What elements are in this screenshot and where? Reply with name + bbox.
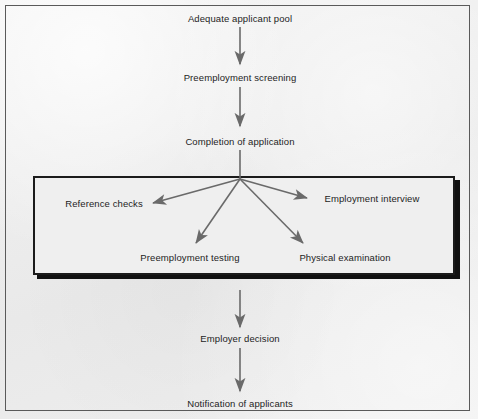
edge-junction-to-reference-checks — [153, 179, 240, 203]
node-notification-of-applicants: Notification of applicants — [187, 398, 293, 409]
node-completion-of-application: Completion of application — [185, 136, 294, 147]
node-employer-decision: Employer decision — [200, 333, 279, 344]
node-physical-examination: Physical examination — [299, 252, 390, 263]
node-reference-checks: Reference checks — [65, 198, 143, 209]
node-adequate-applicant-pool: Adequate applicant pool — [188, 13, 292, 24]
flow-connectors — [0, 0, 478, 419]
node-employment-interview: Employment interview — [325, 193, 420, 204]
diagram-canvas: Adequate applicant pool Preemployment sc… — [0, 0, 478, 419]
node-preemployment-testing: Preemployment testing — [140, 252, 239, 263]
node-preemployment-screening: Preemployment screening — [184, 72, 297, 83]
